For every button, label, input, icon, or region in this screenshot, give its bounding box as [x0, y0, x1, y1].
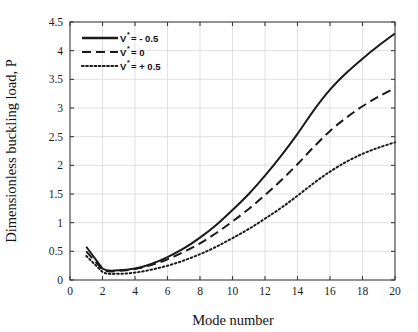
y-tick-label: 3 — [57, 102, 63, 114]
x-tick-label: 0 — [67, 285, 73, 297]
y-axis-title: Dimensionless buckling load, P — [3, 59, 19, 243]
x-tick-label: 6 — [165, 285, 171, 297]
legend-label-superscript-2: * — [127, 45, 130, 52]
x-tick-label: 8 — [197, 285, 203, 297]
x-tick-label: 10 — [227, 285, 239, 297]
legend-label-superscript-3: * — [127, 59, 130, 66]
chart-figure: 02468101214161820 00.511.522.533.544.5 V… — [0, 0, 418, 332]
y-tick-label: 0 — [57, 274, 63, 286]
x-tick-label: 20 — [389, 285, 401, 297]
y-tick-label: 2.5 — [49, 131, 64, 143]
x-axis-title: Mode number — [192, 312, 274, 328]
x-tick-label: 4 — [132, 285, 138, 297]
y-tick-label: 4.5 — [49, 16, 64, 28]
x-tick-label: 18 — [357, 285, 369, 297]
x-tick-label: 12 — [259, 285, 271, 297]
legend-label-value-3: = + 0.5 — [131, 61, 161, 72]
y-tick-label: 1.5 — [49, 188, 64, 200]
y-tick-label: 1 — [57, 217, 63, 229]
legend-label-2: V — [120, 47, 127, 58]
legend-label-3: V — [120, 61, 127, 72]
x-tick-label: 2 — [100, 285, 106, 297]
buckling-load-plot: 02468101214161820 00.511.522.533.544.5 V… — [0, 0, 418, 332]
legend-label-1: V — [120, 33, 127, 44]
y-tick-label: 2 — [57, 159, 63, 171]
x-tick-label: 14 — [292, 285, 304, 297]
y-tick-label: 4 — [57, 45, 63, 57]
legend-label-value-2: = 0 — [131, 47, 144, 58]
x-tick-label: 16 — [324, 285, 336, 297]
y-tick-label: 3.5 — [49, 73, 64, 85]
legend-label-value-1: = - 0.5 — [131, 33, 159, 44]
legend-label-superscript-1: * — [127, 31, 130, 38]
y-tick-label: 0.5 — [49, 245, 64, 257]
